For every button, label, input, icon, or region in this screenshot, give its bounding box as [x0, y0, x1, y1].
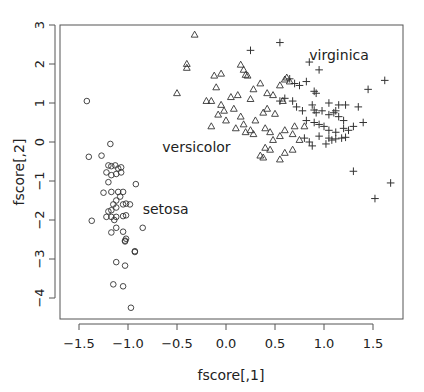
virginica-point: [293, 103, 301, 111]
setosa-point: [108, 141, 114, 147]
virginica-point: [342, 101, 350, 109]
versicolor-point: [289, 131, 296, 137]
versicolor-point: [264, 90, 271, 96]
virginica-point: [310, 119, 318, 127]
y-tick-label: 3: [32, 21, 47, 29]
setosa-point: [128, 305, 134, 311]
plot-svg: −1.5−1.0−0.50.00.51.01.5 −4−3−2−10123 vi…: [0, 0, 424, 392]
versicolor-point: [215, 111, 222, 117]
versicolor-point: [247, 96, 254, 102]
versicolor-point: [281, 127, 288, 133]
y-tick-label: 1: [32, 99, 47, 107]
setosa-point: [89, 218, 95, 224]
versicolor-point: [281, 149, 288, 155]
setosa-point: [127, 202, 133, 208]
virginica-point: [320, 123, 328, 131]
versicolor-point: [260, 109, 267, 115]
annotation-versicolor: versicolor: [162, 139, 231, 155]
setosa-point: [133, 181, 139, 187]
virginica-point: [289, 97, 297, 105]
annotation-setosa: setosa: [143, 201, 189, 217]
virginica-point: [345, 127, 353, 135]
virginica-point: [350, 167, 358, 175]
virginica-point: [330, 109, 338, 117]
versicolor-point: [213, 84, 220, 90]
virginica-point: [332, 128, 340, 136]
versicolor-point: [230, 105, 237, 111]
setosa-point: [106, 179, 112, 185]
versicolor-point: [277, 82, 284, 88]
virginica-point: [312, 89, 320, 97]
y-axis-label: fscore[,2]: [11, 139, 27, 206]
y-tick-label: 2: [32, 60, 47, 68]
x-tick-label: 0.0: [216, 336, 237, 351]
virginica-point: [340, 125, 348, 133]
versicolor-point: [237, 61, 244, 67]
virginica-point: [338, 134, 346, 142]
y-tick-label: 0: [32, 138, 47, 146]
y-axis: −4−3−2−10123: [32, 21, 55, 308]
virginica-point: [355, 103, 363, 111]
virginica-point: [299, 107, 307, 115]
versicolor-point: [223, 117, 230, 123]
virginica-point: [286, 75, 294, 83]
virginica-point: [381, 77, 389, 85]
versicolor-point: [270, 136, 277, 142]
versicolor-point: [296, 136, 303, 142]
setosa-point: [113, 259, 119, 265]
virginica-point: [308, 101, 316, 109]
virginica-point: [359, 119, 367, 127]
versicolor-point: [211, 72, 218, 78]
virginica-point: [296, 82, 304, 90]
versicolor-point: [277, 156, 284, 162]
data-points: [84, 31, 394, 310]
virginica-point: [318, 107, 326, 115]
versicolor-point: [191, 31, 198, 37]
setosa-point: [117, 194, 123, 200]
versicolor-point: [262, 144, 269, 150]
x-tick-label: −0.5: [161, 336, 193, 351]
x-tick-label: −1.5: [63, 336, 95, 351]
y-tick-label: −1: [32, 171, 47, 190]
scatter-chart: −1.5−1.0−0.50.00.51.01.5 −4−3−2−10123 vi…: [0, 0, 424, 392]
virginica-point: [315, 121, 323, 129]
setosa-point: [86, 154, 92, 160]
versicolor-point: [289, 146, 296, 152]
versicolor-point: [257, 80, 264, 86]
versicolor-point: [277, 133, 284, 139]
setosa-point: [99, 153, 105, 159]
y-tick-label: −4: [32, 288, 47, 307]
virginica-point: [247, 47, 255, 55]
setosa-point: [120, 284, 126, 290]
versicolor-point: [237, 113, 244, 119]
x-axis-label: fscore[,1]: [198, 367, 265, 383]
versicolor-point: [208, 123, 215, 129]
setosa-point: [111, 282, 117, 288]
virginica-point: [325, 111, 333, 119]
x-tick-label: −1.0: [112, 336, 144, 351]
setosa-point: [101, 190, 107, 196]
versicolor-point: [232, 125, 239, 131]
virginica-point: [332, 135, 340, 143]
series-virginica: [247, 39, 395, 203]
versicolor-point: [264, 105, 271, 111]
virginica-point: [342, 134, 350, 142]
versicolor-point: [270, 92, 277, 98]
versicolor-point: [272, 110, 279, 116]
versicolor-point: [208, 97, 215, 103]
x-axis: −1.5−1.0−0.50.00.51.01.5: [63, 324, 383, 351]
virginica-point: [340, 117, 348, 125]
versicolor-point: [252, 117, 259, 123]
versicolor-point: [291, 123, 298, 129]
virginica-point: [387, 179, 395, 187]
virginica-point: [325, 99, 333, 107]
versicolor-point: [218, 70, 225, 76]
versicolor-point: [174, 90, 181, 96]
virginica-point: [276, 39, 284, 47]
setosa-point: [84, 98, 90, 104]
setosa-point: [109, 189, 115, 195]
setosa-point: [140, 225, 146, 231]
virginica-point: [371, 195, 379, 203]
virginica-point: [325, 127, 333, 135]
versicolor-point: [221, 107, 228, 113]
